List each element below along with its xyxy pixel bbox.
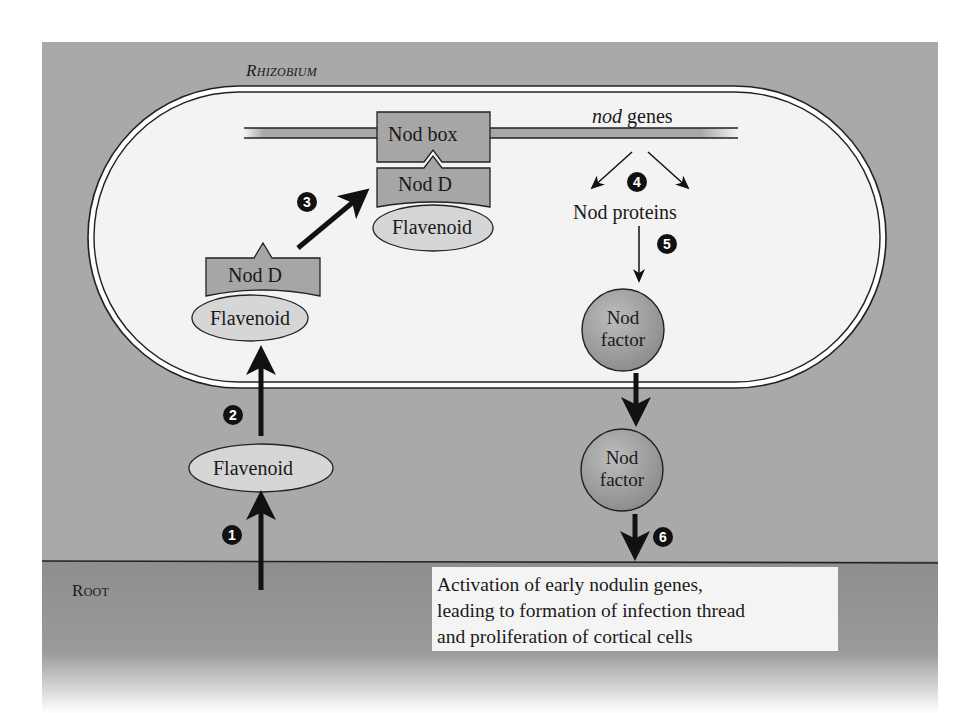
- nod-box-label: Nod box: [388, 124, 457, 144]
- nod-genes-text: genes: [622, 105, 673, 127]
- nod-factor-outside-line2: factor: [582, 469, 662, 491]
- rhizobium-label: Rhizobium: [246, 62, 317, 79]
- nod-signaling-diagram: Rhizobium Nod box nod genes Nod D Flaven…: [0, 0, 976, 713]
- nod-d-left-label: Nod D: [228, 265, 282, 285]
- nod-proteins-label: Nod proteins: [573, 202, 677, 222]
- nod-factor-inside-line1: Nod: [583, 307, 663, 329]
- step-badge-6: 6: [653, 527, 673, 547]
- nod-d-upper-label: Nod D: [398, 174, 452, 194]
- nod-factor-inside-label: Nod factor: [583, 307, 663, 351]
- nod-genes-italic: nod: [592, 105, 622, 127]
- nod-factor-outside-label: Nod factor: [582, 447, 662, 491]
- flavenoid-outside-label: Flavenoid: [213, 458, 293, 478]
- outcome-line-2: leading to formation of infection thread: [437, 598, 838, 624]
- step-badge-4: 4: [627, 172, 647, 192]
- root-label: Root: [72, 582, 109, 599]
- step-badge-3: 3: [297, 192, 317, 212]
- nod-genes-label: nod genes: [592, 106, 673, 126]
- flavenoid-left-label: Flavenoid: [210, 308, 290, 328]
- nod-factor-outside-line1: Nod: [582, 447, 662, 469]
- nod-factor-inside-line2: factor: [583, 329, 663, 351]
- step-badge-5: 5: [657, 234, 677, 254]
- outcome-textbox: Activation of early nodulin genes, leadi…: [432, 567, 838, 651]
- flavenoid-upper-label: Flavenoid: [392, 217, 472, 237]
- step-badge-2: 2: [223, 405, 243, 425]
- step-badge-1: 1: [222, 525, 242, 545]
- outcome-line-3: and proliferation of cortical cells: [437, 624, 838, 650]
- outcome-line-1: Activation of early nodulin genes,: [437, 572, 838, 598]
